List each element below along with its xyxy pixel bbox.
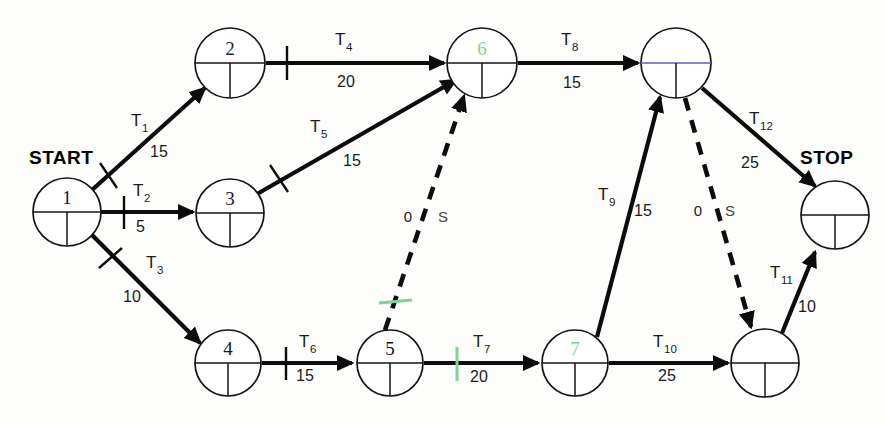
label-t10-name: T: [653, 332, 663, 351]
label-t5-name: T: [310, 117, 320, 136]
edge-t12: [702, 88, 815, 186]
node-7[interactable]: 7: [542, 330, 608, 396]
label-dummy-2-duration: 0: [694, 202, 702, 219]
node-5[interactable]: 5: [357, 330, 423, 396]
label-t5-duration: 15: [343, 152, 361, 169]
label-t11-name: T: [770, 263, 780, 282]
label-t2: T 2 5: [133, 181, 150, 235]
label-t11-duration: 10: [798, 298, 816, 315]
label-t12-sub: 12: [760, 120, 773, 132]
label-t1-sub: 1: [142, 122, 148, 134]
label-t8: T 8 15: [561, 30, 581, 91]
network-diagram-canvas: 1 2 3 4 5: [0, 0, 887, 425]
label-dummy-1-s: S: [438, 208, 448, 225]
label-t10: T 10 25: [653, 332, 677, 384]
label-t7-sub: 7: [484, 343, 490, 355]
label-t2-duration: 5: [136, 218, 145, 235]
node-3-label: 3: [225, 188, 235, 209]
label-t12-duration: 25: [741, 154, 759, 171]
label-dummy-2-s: S: [725, 202, 735, 219]
edge-t4: [266, 46, 444, 80]
label-t8-sub: 8: [572, 41, 578, 53]
label-t9-duration: 15: [634, 202, 652, 219]
label-t6-name: T: [299, 332, 309, 351]
node-9[interactable]: [731, 329, 799, 397]
node-2[interactable]: 2: [195, 28, 265, 98]
node-4[interactable]: 4: [195, 330, 261, 396]
label-t3-duration: 10: [123, 288, 141, 305]
label-t4-name: T: [335, 30, 345, 49]
label-dummy-1-duration: 0: [404, 208, 412, 225]
label-t5-sub: 5: [321, 128, 327, 140]
label-t4-duration: 20: [337, 73, 355, 90]
label-t8-name: T: [561, 30, 571, 49]
label-t7-name: T: [473, 332, 483, 351]
edge-t1: [92, 88, 205, 190]
node-3[interactable]: 3: [196, 179, 264, 247]
label-t7: T 7 20: [470, 332, 490, 385]
label-t12: T 12 25: [741, 109, 773, 171]
label-t3: T 3 10: [123, 253, 163, 305]
label-t2-name: T: [133, 181, 143, 200]
label-t10-sub: 10: [664, 343, 677, 355]
label-t1-name: T: [131, 111, 141, 130]
edge-t3: [92, 235, 200, 343]
node-4-label: 4: [223, 338, 233, 359]
label-t6-sub: 6: [310, 343, 316, 355]
node-8[interactable]: [641, 28, 711, 98]
edge-dummy-1: [379, 96, 464, 330]
label-t8-duration: 15: [563, 74, 581, 91]
label-t10-duration: 25: [658, 367, 676, 384]
diagram-svg: 1 2 3 4 5: [0, 0, 887, 425]
node-6-label: 6: [477, 38, 487, 59]
stop-label: STOP: [800, 147, 853, 168]
label-t7-duration: 20: [470, 368, 488, 385]
label-t4-sub: 4: [346, 41, 353, 53]
label-t4: T 4 20: [335, 30, 355, 90]
label-t1-duration: 15: [150, 143, 168, 160]
node-1[interactable]: 1: [33, 178, 101, 246]
label-dummy-2: 0 S: [694, 202, 735, 219]
label-t3-name: T: [146, 253, 156, 272]
label-t9-name: T: [598, 185, 608, 204]
label-t12-name: T: [749, 109, 759, 128]
node-7-label: 7: [570, 338, 580, 359]
node-2-label: 2: [225, 38, 235, 59]
label-t11-sub: 11: [781, 274, 793, 286]
node-10[interactable]: [801, 181, 869, 249]
label-t3-sub: 3: [157, 264, 163, 276]
node-1-label: 1: [62, 187, 72, 208]
start-label: START: [29, 147, 93, 168]
label-t6: T 6 15: [296, 332, 316, 384]
edge-t11: [782, 252, 815, 333]
node-5-label: 5: [385, 338, 395, 359]
label-t2-sub: 2: [144, 192, 150, 204]
label-t6-duration: 15: [296, 367, 314, 384]
edge-t5: [257, 80, 456, 194]
label-t9: T 9 15: [598, 185, 652, 219]
label-t9-sub: 9: [609, 196, 615, 208]
node-6[interactable]: 6: [447, 28, 517, 98]
